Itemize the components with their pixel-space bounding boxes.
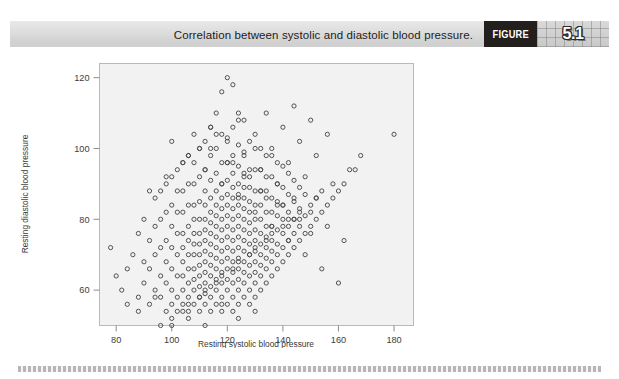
figure-word-label: FIGURE (492, 28, 528, 40)
x-tick-label: 160 (331, 335, 346, 345)
y-tick-label: 100 (74, 144, 89, 154)
y-axis-ticks: 6080100120 (74, 73, 99, 295)
figure-number-label: 5.1 (562, 24, 583, 44)
scatter-plot-svg: 6080100120 80100120140160180 Resting sys… (0, 52, 619, 348)
figure-caption-bar: Correlation between systolic and diastol… (10, 21, 609, 47)
y-tick-label: 120 (74, 73, 89, 83)
scatter-plot-figure: 6080100120 80100120140160180 Resting sys… (0, 52, 619, 348)
x-axis-title: Resting systolic blood pressure (198, 339, 314, 348)
y-axis-title: Resting diastolic blood pressure (20, 134, 30, 253)
x-tick-label: 180 (386, 335, 401, 345)
figure-number-badge: 5.1 (537, 21, 609, 47)
plot-area-background (100, 64, 414, 326)
figure-caption-text: Correlation between systolic and diastol… (174, 29, 473, 41)
caption-strip: Correlation between systolic and diastol… (10, 21, 484, 47)
x-tick-label: 100 (164, 335, 179, 345)
decorative-bottom-rule (18, 366, 601, 372)
x-tick-label: 80 (111, 335, 121, 345)
figure-word-badge: FIGURE (484, 21, 537, 47)
y-tick-label: 80 (79, 215, 89, 225)
y-tick-label: 60 (79, 285, 89, 295)
